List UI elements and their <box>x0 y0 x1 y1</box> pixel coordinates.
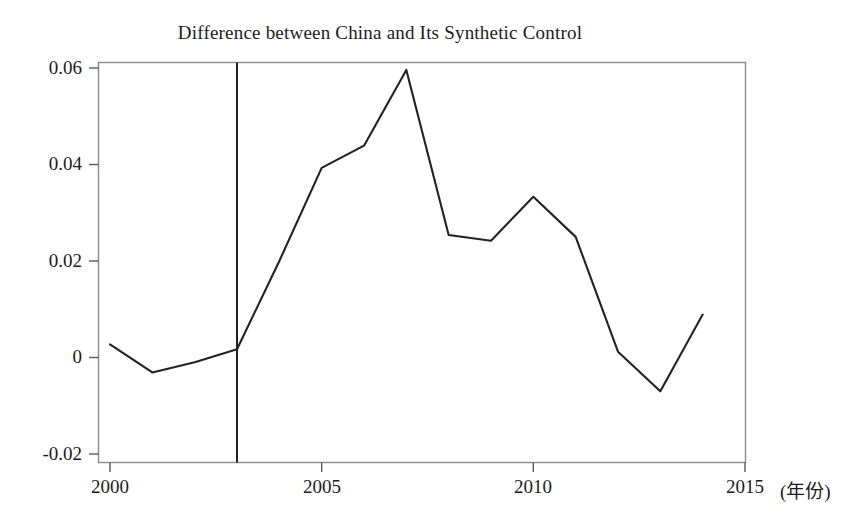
data-series-line <box>110 70 703 391</box>
y-tick-label-0.06: 0.06 <box>0 57 82 79</box>
x-tick-label-2000: 2000 <box>60 476 160 498</box>
chart-figure: Difference between China and Its Synthet… <box>0 0 860 527</box>
x-tick-label-2005: 2005 <box>272 476 372 498</box>
plot-area <box>0 0 860 527</box>
x-tick-label-2010: 2010 <box>483 476 583 498</box>
y-tick-label-0: 0 <box>0 346 82 368</box>
y-tick-label-0.02: 0.02 <box>0 250 82 272</box>
x-axis-unit-label: (年份) <box>780 476 831 503</box>
plot-frame <box>99 63 746 463</box>
y-axis-ticks <box>89 68 99 454</box>
x-axis-ticks <box>110 463 745 473</box>
y-tick-label-0.04: 0.04 <box>0 153 82 175</box>
y-tick-label--0.02: -0.02 <box>0 443 82 465</box>
